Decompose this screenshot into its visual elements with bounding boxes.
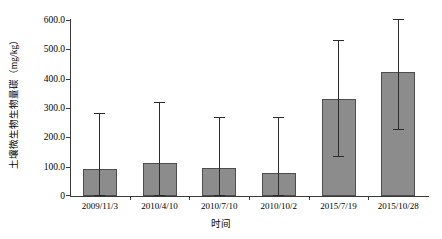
error-bar-cap-top bbox=[333, 40, 344, 41]
x-tick-mark bbox=[189, 196, 190, 200]
error-bar-line bbox=[219, 118, 220, 196]
y-axis-tick-labels: 0100.0200.0300.0400.0500.0600.0 bbox=[20, 0, 65, 239]
x-tick-label: 2015/7/19 bbox=[309, 201, 369, 211]
error-bar-cap-top bbox=[214, 117, 225, 118]
error-bar bbox=[211, 118, 227, 196]
error-bar-line bbox=[159, 103, 160, 196]
y-tick-label: 600.0 bbox=[23, 15, 65, 25]
x-tick-mark bbox=[130, 196, 131, 200]
x-axis-title: 时间 bbox=[0, 216, 442, 230]
error-bar-cap-top bbox=[94, 113, 105, 114]
error-bar bbox=[390, 20, 406, 196]
error-bar-cap-top bbox=[273, 117, 284, 118]
x-tick-mark bbox=[249, 196, 250, 200]
y-tick-label: 400.0 bbox=[23, 74, 65, 84]
x-tick-mark bbox=[309, 196, 310, 200]
x-tick-mark bbox=[368, 196, 369, 200]
y-tick-mark bbox=[66, 195, 70, 196]
error-bar-cap-bottom bbox=[154, 195, 165, 196]
plot-area bbox=[70, 20, 428, 196]
y-tick-label: 300.0 bbox=[23, 103, 65, 113]
error-bar-cap-bottom bbox=[333, 156, 344, 157]
y-tick-mark bbox=[66, 20, 70, 21]
error-bar bbox=[152, 103, 168, 196]
y-tick-label: 500.0 bbox=[23, 44, 65, 54]
y-tick-mark bbox=[66, 49, 70, 50]
error-bar bbox=[92, 114, 108, 196]
x-tick-label: 2010/7/10 bbox=[189, 201, 249, 211]
y-tick-mark bbox=[66, 108, 70, 109]
y-tick-label: 200.0 bbox=[23, 132, 65, 142]
error-bar-cap-bottom bbox=[214, 195, 225, 196]
error-bar-cap-bottom bbox=[94, 195, 105, 196]
x-tick-label: 2015/10/28 bbox=[368, 201, 428, 211]
error-bar-cap-top bbox=[393, 19, 404, 20]
y-tick-mark bbox=[66, 167, 70, 168]
error-bar-cap-top bbox=[154, 102, 165, 103]
error-bar-line bbox=[338, 41, 339, 157]
error-bar-cap-bottom bbox=[273, 195, 284, 196]
x-tick-label: 2010/4/10 bbox=[130, 201, 190, 211]
chart-figure: 土壤微生物生物量碳（mg/kg） 0100.0200.0300.0400.050… bbox=[0, 0, 442, 239]
y-tick-label: 100.0 bbox=[23, 162, 65, 172]
error-bar-line bbox=[278, 118, 279, 196]
error-bar-line bbox=[398, 20, 399, 130]
error-bar bbox=[271, 118, 287, 196]
error-bar bbox=[331, 41, 347, 196]
error-bar-line bbox=[99, 114, 100, 196]
error-bar-cap-bottom bbox=[393, 129, 404, 130]
y-tick-label: 0 bbox=[23, 191, 65, 201]
x-tick-label: 2010/10/2 bbox=[249, 201, 309, 211]
y-tick-mark bbox=[66, 137, 70, 138]
x-tick-label: 2009/11/3 bbox=[70, 201, 130, 211]
y-tick-mark bbox=[66, 79, 70, 80]
